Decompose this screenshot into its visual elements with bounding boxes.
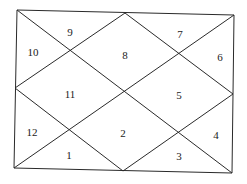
- house-number-12: 12: [27, 126, 38, 138]
- house-number-1: 1: [66, 149, 72, 161]
- diagonal-tr-bl: [14, 15, 234, 168]
- house-number-2: 2: [120, 127, 126, 139]
- house-number-7: 7: [177, 28, 183, 40]
- house-number-3: 3: [176, 150, 182, 162]
- house-number-10: 10: [28, 46, 40, 58]
- house-number-8: 8: [122, 49, 128, 61]
- house-number-9: 9: [67, 26, 73, 38]
- house-number-5: 5: [176, 89, 182, 101]
- house-number-4: 4: [213, 129, 219, 141]
- house-number-6: 6: [217, 51, 223, 63]
- house-number-11: 11: [65, 88, 76, 100]
- horoscope-chart: 123456789101112: [0, 0, 247, 184]
